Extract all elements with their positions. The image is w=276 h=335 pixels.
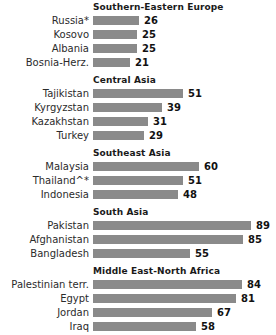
bar-category-label: Turkey xyxy=(0,130,89,141)
bar-category-label: Indonesia xyxy=(0,189,89,200)
bar-row: Tajikistan51 xyxy=(0,88,276,99)
bar-category-label: Afghanistan xyxy=(0,234,89,245)
bar xyxy=(93,58,130,67)
bar-category-label: Iraq xyxy=(0,321,89,332)
bar-category-label: Malaysia xyxy=(0,161,89,172)
bar-row: Egypt81 xyxy=(0,293,276,304)
bar-value-label: 67 xyxy=(217,307,231,318)
bar-category-label: Albania xyxy=(0,43,89,54)
bar-value-label: 84 xyxy=(247,279,261,290)
bar-category-label: Tajikistan xyxy=(0,88,89,99)
bar xyxy=(93,103,162,112)
bar-row: Iraq58 xyxy=(0,321,276,332)
bar xyxy=(93,221,251,230)
bar-row: Kazakhstan31 xyxy=(0,116,276,127)
bar-value-label: 51 xyxy=(188,175,202,186)
bar xyxy=(93,44,137,53)
bar-category-label: Palestinian terr. xyxy=(0,279,89,290)
bar xyxy=(93,249,190,258)
bar-value-label: 58 xyxy=(201,321,215,332)
bar xyxy=(93,131,144,140)
bar-row: Malaysia60 xyxy=(0,161,276,172)
bar-category-label: Kyrgyzstan xyxy=(0,102,89,113)
bar-value-label: 89 xyxy=(256,220,270,231)
bar xyxy=(93,235,243,244)
bar-row: Jordan67 xyxy=(0,307,276,318)
bar-value-label: 25 xyxy=(142,29,156,40)
bar-category-label: Kosovo xyxy=(0,29,89,40)
bar xyxy=(93,162,199,171)
bar-value-label: 29 xyxy=(149,130,163,141)
bar xyxy=(93,176,183,185)
bar xyxy=(93,322,196,331)
bar xyxy=(93,89,183,98)
bar-row: Turkey29 xyxy=(0,130,276,141)
group-header: Southern-Eastern Europe xyxy=(93,2,223,13)
group-header: Central Asia xyxy=(93,75,156,86)
bar-category-label: Egypt xyxy=(0,293,89,304)
bar-value-label: 85 xyxy=(248,234,262,245)
bar-row: Thailand^*51 xyxy=(0,175,276,186)
group-header: Middle East-North Africa xyxy=(93,266,220,277)
bar-category-label: Russia* xyxy=(0,15,89,26)
bar-row: Bosnia-Herz.21 xyxy=(0,57,276,68)
bar-row: Palestinian terr.84 xyxy=(0,279,276,290)
bar-row: Pakistan89 xyxy=(0,220,276,231)
bar-category-label: Pakistan xyxy=(0,220,89,231)
bar-value-label: 39 xyxy=(167,102,181,113)
bar-value-label: 51 xyxy=(188,88,202,99)
bar-value-label: 31 xyxy=(153,116,167,127)
bar-row: Kyrgyzstan39 xyxy=(0,102,276,113)
bar xyxy=(93,190,178,199)
bar-category-label: Kazakhstan xyxy=(0,116,89,127)
bar xyxy=(93,308,212,317)
bar xyxy=(93,16,139,25)
bar-value-label: 81 xyxy=(241,293,255,304)
bar-row: Albania25 xyxy=(0,43,276,54)
bar-category-label: Jordan xyxy=(0,307,89,318)
bar xyxy=(93,117,148,126)
bar-value-label: 48 xyxy=(183,189,197,200)
bar-row: Indonesia48 xyxy=(0,189,276,200)
bar-category-label: Bosnia-Herz. xyxy=(0,57,89,68)
bar-category-label: Bangladesh xyxy=(0,248,89,259)
bar xyxy=(93,280,242,289)
bar xyxy=(93,294,236,303)
bar-value-label: 60 xyxy=(204,161,218,172)
bar-value-label: 21 xyxy=(135,57,149,68)
grouped-bar-chart: Southern-Eastern EuropeRussia*26Kosovo25… xyxy=(0,0,276,335)
bar-category-label: Thailand^* xyxy=(0,175,89,186)
bar-value-label: 26 xyxy=(144,15,158,26)
bar-row: Bangladesh55 xyxy=(0,248,276,259)
group-header: South Asia xyxy=(93,207,148,218)
bar-row: Russia*26 xyxy=(0,15,276,26)
bar-row: Kosovo25 xyxy=(0,29,276,40)
bar-value-label: 25 xyxy=(142,43,156,54)
bar-value-label: 55 xyxy=(195,248,209,259)
bar xyxy=(93,30,137,39)
bar-row: Afghanistan85 xyxy=(0,234,276,245)
group-header: Southeast Asia xyxy=(93,148,171,159)
